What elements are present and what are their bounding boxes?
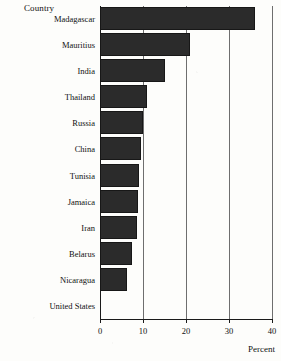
- tick-label-30: 30: [217, 326, 241, 336]
- tick-label-0: 0: [88, 326, 112, 336]
- value-axis-title: Percent: [0, 344, 275, 354]
- category-label-united-states: United States: [0, 301, 95, 311]
- bar-mauritius: [100, 33, 190, 56]
- bar-belarus: [100, 242, 132, 265]
- bar-thailand: [100, 85, 147, 108]
- category-label-mauritius: Mauritius: [0, 40, 95, 50]
- bar-tunisia: [100, 164, 139, 187]
- tick-label-20: 20: [174, 326, 198, 336]
- category-label-nicaragua: Nicaragua: [0, 275, 95, 285]
- bar-china: [100, 137, 141, 160]
- category-label-tunisia: Tunisia: [0, 171, 95, 181]
- gridline-40: [272, 6, 273, 319]
- tick-mark-40: [272, 319, 273, 323]
- gridline-30: [229, 6, 230, 319]
- category-axis-title: Country: [24, 3, 54, 13]
- category-label-india: India: [0, 66, 95, 76]
- category-label-thailand: Thailand: [0, 92, 95, 102]
- bar-chart: Country 010203040 MadagascarMauritiusInd…: [0, 0, 281, 361]
- bar-iran: [100, 216, 137, 239]
- category-label-iran: Iran: [0, 223, 95, 233]
- tick-mark-30: [229, 319, 230, 323]
- tick-label-40: 40: [260, 326, 281, 336]
- category-label-russia: Russia: [0, 118, 95, 128]
- bar-nicaragua: [100, 268, 127, 291]
- plot-area: 010203040: [100, 6, 272, 319]
- category-label-china: China: [0, 144, 95, 154]
- category-label-belarus: Belarus: [0, 249, 95, 259]
- category-label-jamaica: Jamaica: [0, 197, 95, 207]
- bar-india: [100, 59, 165, 82]
- bar-jamaica: [100, 190, 138, 213]
- tick-label-10: 10: [131, 326, 155, 336]
- tick-mark-10: [143, 319, 144, 323]
- tick-mark-20: [186, 319, 187, 323]
- category-label-madagascar: Madagascar: [0, 14, 95, 24]
- tick-mark-0: [100, 319, 101, 323]
- bar-russia: [100, 111, 143, 134]
- bar-madagascar: [100, 7, 255, 30]
